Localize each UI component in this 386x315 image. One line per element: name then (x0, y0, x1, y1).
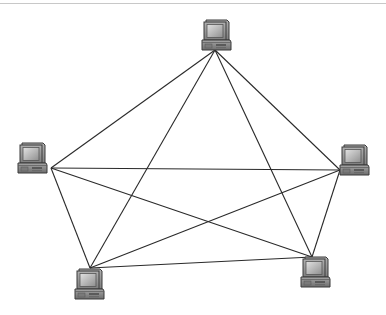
node-pc-right (340, 145, 369, 175)
desktop-computer-icon (202, 20, 231, 50)
edge-left-bottom-left (51, 168, 90, 268)
node-pc-bottom-right (301, 257, 330, 287)
edge-bottom-left-bottom-right (90, 257, 312, 268)
edge-top-left (51, 50, 215, 168)
desktop-computer-icon (75, 269, 104, 299)
edge-left-bottom-right (51, 168, 312, 257)
node-pc-top (202, 20, 231, 50)
network-diagram (0, 0, 386, 315)
desktop-computer-icon (18, 143, 47, 173)
mesh-edges (51, 50, 340, 268)
edge-top-bottom-left (90, 50, 215, 268)
edge-top-right (215, 50, 340, 170)
node-pc-bottom-left (75, 269, 104, 299)
edge-top-bottom-right (215, 50, 312, 257)
edge-left-right (51, 168, 340, 170)
desktop-computer-icon (340, 145, 369, 175)
desktop-computer-icon (301, 257, 330, 287)
node-pc-left (18, 143, 47, 173)
edge-right-bottom-right (312, 170, 340, 257)
